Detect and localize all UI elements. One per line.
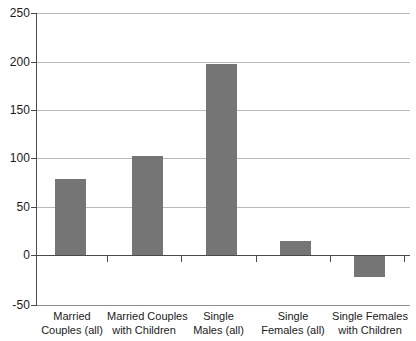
bar-chart: 250 200 150 100 50 0 -50 Married Couples… bbox=[0, 0, 416, 341]
gridline-minus50 bbox=[37, 305, 410, 306]
x-axis-label-line-2: Males (all) bbox=[181, 324, 256, 338]
y-tick-label-100: 100 bbox=[10, 152, 30, 164]
bar-married-couples-all[interactable] bbox=[55, 179, 86, 255]
y-tick-label-minus50: -50 bbox=[12, 299, 30, 311]
gridline-200 bbox=[37, 62, 410, 63]
x-axis-label-line-2: with Children bbox=[107, 324, 181, 338]
x-axis-label-line-1: Single Females bbox=[330, 310, 410, 324]
y-tick-label-50: 50 bbox=[16, 201, 30, 213]
x-axis-label-line-2: with Children bbox=[330, 324, 410, 338]
bar-single-males-all[interactable] bbox=[206, 64, 237, 255]
y-tick-label-250: 250 bbox=[10, 7, 30, 19]
bar-single-females-all[interactable] bbox=[280, 241, 311, 255]
gridline-250 bbox=[37, 13, 410, 14]
x-tick-mark-2 bbox=[181, 256, 182, 262]
y-axis-line bbox=[36, 13, 37, 306]
bar-single-females-with-children[interactable] bbox=[354, 256, 385, 277]
bar-married-couples-with-children[interactable] bbox=[132, 156, 163, 255]
y-tick-mark-minus50 bbox=[31, 305, 37, 306]
y-tick-mark-100 bbox=[31, 158, 37, 159]
x-axis-label-line-1: Married Couples bbox=[107, 310, 181, 324]
x-axis-label-line-1: Married bbox=[37, 310, 107, 324]
x-tick-mark-5 bbox=[404, 256, 405, 262]
x-axis-label-line-1: Single bbox=[181, 310, 256, 324]
y-tick-mark-50 bbox=[31, 207, 37, 208]
x-axis-label-single-females-all: Single Females (all) bbox=[256, 310, 330, 337]
x-axis-label-married-couples-all: Married Couples (all) bbox=[37, 310, 107, 337]
x-axis-label-line-2: Females (all) bbox=[256, 324, 330, 338]
x-axis-label-single-males-all: Single Males (all) bbox=[181, 310, 256, 337]
y-tick-mark-200 bbox=[31, 62, 37, 63]
y-tick-label-200: 200 bbox=[10, 56, 30, 68]
y-tick-label-150: 150 bbox=[10, 104, 30, 116]
y-tick-mark-150 bbox=[31, 110, 37, 111]
y-tick-mark-250 bbox=[31, 13, 37, 14]
x-axis-label-single-females-with-children: Single Females with Children bbox=[330, 310, 410, 337]
x-axis-label-line-1: Single bbox=[256, 310, 330, 324]
x-tick-mark-4 bbox=[330, 256, 331, 262]
x-axis-label-married-couples-with-children: Married Couples with Children bbox=[107, 310, 181, 337]
y-tick-label-0: 0 bbox=[23, 249, 30, 261]
x-tick-mark-3 bbox=[256, 256, 257, 262]
x-tick-mark-1 bbox=[107, 256, 108, 262]
x-axis-label-line-2: Couples (all) bbox=[37, 324, 107, 338]
